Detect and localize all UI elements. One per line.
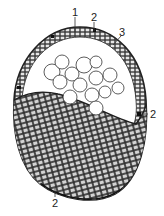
label-2-bottom: 2: [52, 197, 58, 209]
embryo-diagram: 1 2 3 2 2: [0, 0, 164, 216]
label-3: 3: [119, 26, 125, 38]
label-2-right: 2: [150, 108, 156, 120]
label-2-top: 2: [91, 11, 97, 23]
label-1: 1: [72, 6, 78, 18]
